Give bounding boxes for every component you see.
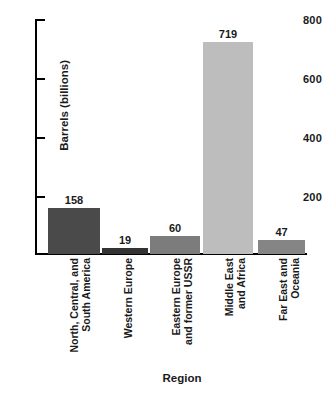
category-label-line-1: North, Central, and — [69, 258, 81, 353]
bar-group-middle-east-africa[interactable]: 719 — [203, 19, 253, 254]
category-label-line-1: Far East and — [278, 258, 290, 321]
bar-group-far-east-oceania[interactable]: 47 — [258, 19, 305, 254]
bar-rect[interactable] — [102, 248, 148, 254]
bar-group-western-europe[interactable]: 19 — [102, 19, 148, 254]
bar-rect[interactable] — [48, 208, 100, 254]
category-label-line-2: and former USSR — [183, 258, 195, 345]
bar-rect[interactable] — [258, 240, 305, 254]
category-label-line-2: South America — [81, 258, 93, 353]
category-label-far-east-oceania: Far East and Oceania — [278, 258, 327, 321]
category-label-line-1: Middle East — [224, 258, 236, 316]
bars-container: 158 19 60 719 47 — [35, 19, 307, 254]
bar-group-north-central-south-america[interactable]: 158 — [48, 19, 100, 254]
category-label-line-1: Western Europe — [123, 258, 135, 338]
category-label-line-1: Eastern Europe — [171, 258, 183, 345]
x-axis-title: Region — [163, 372, 202, 384]
bar-rect[interactable] — [203, 42, 253, 254]
category-label-line-2: Oceania — [290, 258, 302, 321]
x-axis-title-wrapper: Region — [0, 372, 322, 384]
bar-value-label: 60 — [150, 222, 200, 234]
category-label-line-2: and Africa — [236, 258, 248, 316]
bar-value-label: 158 — [48, 194, 100, 206]
bar-value-label: 19 — [102, 234, 148, 246]
bar-rect[interactable] — [150, 236, 200, 254]
bar-group-eastern-europe-former-ussr[interactable]: 60 — [150, 19, 200, 254]
bar-value-label: 719 — [203, 28, 253, 40]
x-axis-category-labels: North, Central, and South America Wester… — [35, 258, 307, 368]
bar-value-label: 47 — [258, 226, 305, 238]
